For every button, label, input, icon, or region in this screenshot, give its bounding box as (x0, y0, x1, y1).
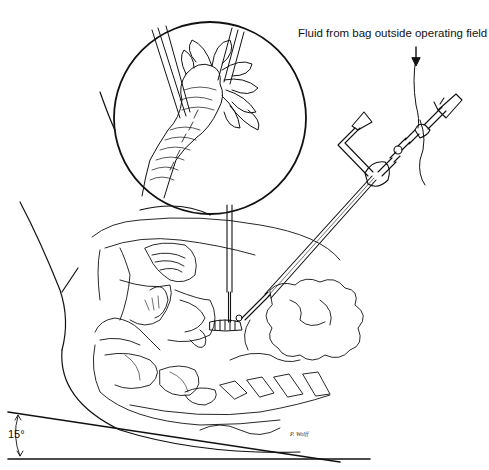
pelvic-anatomy (92, 218, 340, 435)
medical-illustration (0, 0, 489, 470)
table-lines (8, 412, 370, 462)
table-angle-label: 15° (8, 428, 25, 440)
vertical-instrument (227, 205, 232, 322)
magnified-inset (114, 22, 306, 214)
illustration-canvas: Fluid from bag outside operating field 1… (0, 0, 489, 470)
bowel-loops (230, 279, 363, 362)
fluid-source-label: Fluid from bag outside operating field (298, 27, 487, 39)
fluid-tubing (412, 47, 425, 185)
artist-signature: P. Wolff (290, 431, 308, 437)
